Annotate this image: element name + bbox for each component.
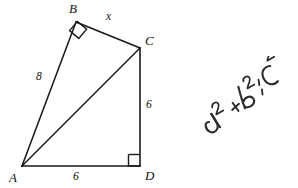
vertex-label-b: B [69,1,77,16]
right-angle-mark-d [129,155,141,167]
geometry-figure: B C D A 8 x 6 6 [0,0,298,188]
handwritten-exponent-2-a [211,101,223,115]
handwritten-letter-a [201,113,220,134]
segment-bc [76,22,140,48]
handwritten-equals-sign [255,80,266,95]
segment-ac-diagonal [22,48,140,166]
handwritten-exponent-2-b [242,75,254,89]
side-label-ab: 8 [36,70,42,82]
vertex-label-a: A [8,170,17,185]
handwritten-letter-c [259,65,279,87]
side-label-cd: 6 [146,98,152,110]
side-label-bc: x [105,10,112,22]
vertex-label-d: D [144,168,155,183]
handwriting-canvas [186,56,298,134]
segment-ab [22,22,76,166]
handwritten-exponent-2-c [262,56,274,61]
handwritten-plus-sign [229,100,242,113]
side-label-ad: 6 [73,170,79,182]
pythagorean-theorem-annotation [186,56,298,134]
right-angle-mark-b [70,21,87,38]
vertex-label-c: C [145,33,154,48]
